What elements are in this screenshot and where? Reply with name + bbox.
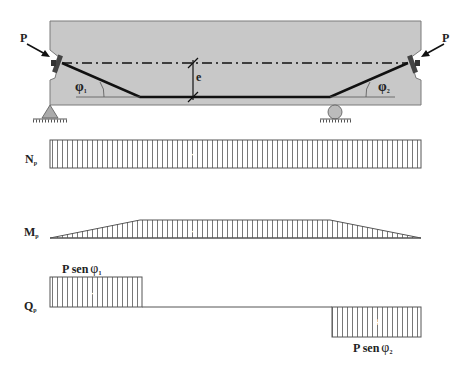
shear-diagram: - + Qp P senφ1 P senφ2 bbox=[24, 261, 421, 355]
prestressed-beam-diagram: e φ1 φ2 P P - Np - Mp bbox=[0, 0, 471, 367]
beam: e φ1 φ2 P P bbox=[20, 21, 449, 105]
force-label-left: P bbox=[20, 31, 27, 45]
svg-text:-: - bbox=[90, 287, 93, 298]
svg-text:+: + bbox=[374, 317, 380, 328]
shear-label: Qp bbox=[24, 299, 37, 313]
force-label-right: P bbox=[442, 31, 449, 45]
eccentricity-label: e bbox=[196, 70, 202, 84]
normal-force-diagram: - Np bbox=[25, 140, 421, 168]
normal-force-label: Np bbox=[25, 152, 38, 166]
roller-support bbox=[320, 105, 351, 121]
pin-support bbox=[33, 105, 67, 121]
shear-right-value: P senφ2 bbox=[353, 340, 392, 355]
moment-label: Mp bbox=[24, 225, 39, 239]
moment-diagram: - Mp bbox=[24, 220, 421, 239]
shear-left-value: P senφ1 bbox=[62, 261, 101, 276]
svg-text:-: - bbox=[190, 148, 193, 159]
svg-text:-: - bbox=[190, 225, 193, 236]
